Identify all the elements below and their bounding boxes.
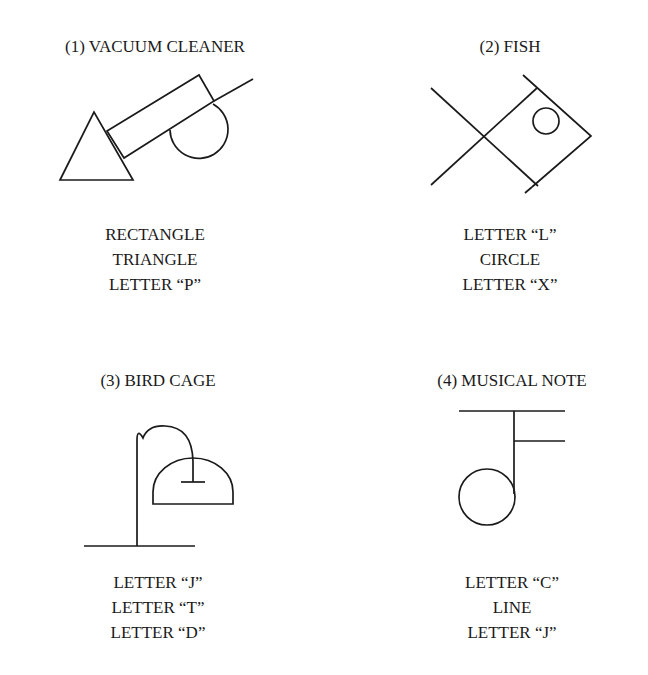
handle-line — [214, 79, 253, 101]
musical-note-drawing — [459, 411, 565, 525]
drawings-canvas — [0, 0, 648, 675]
bird-cage-drawing — [84, 426, 233, 546]
j-hook — [137, 426, 193, 546]
fish-drawing — [431, 75, 591, 193]
vacuum-cleaner-drawing — [60, 75, 253, 180]
rectangle-shape — [107, 75, 214, 158]
l-tail — [525, 187, 532, 193]
p-bowl-shape — [170, 104, 228, 158]
note-head-circle — [459, 469, 515, 525]
eye-circle — [533, 108, 559, 134]
